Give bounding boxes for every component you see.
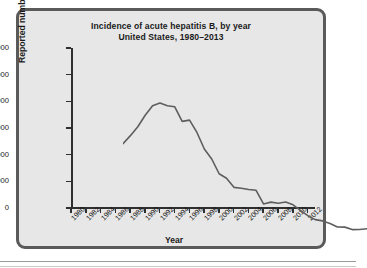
footer-divider: [0, 261, 356, 262]
y-tick: [66, 47, 71, 49]
y-tick-label: 0: [0, 203, 9, 212]
data-series-line: [123, 85, 367, 245]
y-tick-label: 25,000: [0, 70, 9, 79]
y-tick: [66, 74, 71, 76]
y-tick-label: 15,000: [0, 123, 9, 132]
y-tick: [66, 181, 71, 183]
plot-area: 30,00025,00020,00015,00010,0005,0000 198…: [71, 48, 315, 208]
chart-title-line2: United States, 1980–2013: [19, 32, 323, 42]
y-tick-label: 10,000: [0, 150, 9, 159]
y-tick-label: 5,000: [0, 176, 9, 185]
y-tick: [66, 101, 71, 103]
y-axis-title: Reported number of cases: [17, 0, 27, 63]
footer-divider-secondary: [0, 266, 356, 267]
chart-title-line1: Incidence of acute hepatitis B, by year: [19, 21, 323, 31]
figure-panel: Incidence of acute hepatitis B, by year …: [16, 8, 326, 249]
y-tick-label: 20,000: [0, 96, 9, 105]
y-tick: [66, 154, 71, 156]
y-tick-label: 30,000: [0, 43, 9, 52]
y-tick: [66, 127, 71, 129]
